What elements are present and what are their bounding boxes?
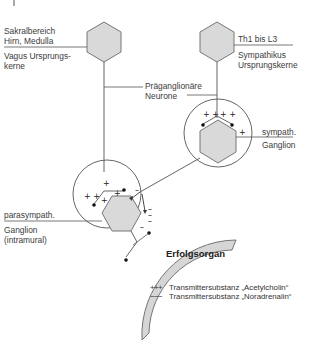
acetylcholin-mark: + [103, 179, 110, 188]
legend-label: Transmittersubstanz „Noradrenalin“ [169, 292, 291, 301]
acetylcholin-mark: + [101, 196, 108, 205]
acetylcholin-mark: + [239, 128, 246, 137]
sympathetic-center-hexagon [200, 22, 234, 62]
acetylcholin-marks: + + [203, 110, 219, 119]
sympathetic-ganglion-label-2: Ganglion [262, 140, 296, 150]
preganglionic-label-2: Neurone [145, 91, 177, 101]
sympathetic-ganglion-hexagon [200, 120, 236, 163]
target-organ-label: Erfolgsorgan [166, 249, 225, 259]
synapse-dot [122, 188, 126, 192]
postganglionic-sympathetic-fiber [140, 158, 200, 192]
acetylcholin-marks: + + [84, 192, 100, 201]
sympathetic-center-label-1: Th1 bis L3 [238, 34, 277, 44]
synapse-dot [230, 123, 234, 127]
parasympathetic-center-label-4: kerne [4, 61, 25, 71]
sympathetic-center-label-2: Sympathikus [238, 50, 286, 60]
parasympathetic-ganglion-label-2: Ganglion [4, 225, 38, 235]
legend-item-noradrenalin: −−−Transmittersubstanz „Noradrenalin“ [150, 292, 291, 302]
arrowhead [143, 210, 147, 214]
parasympathetic-ganglion-hexagon [102, 196, 141, 231]
parasympathetic-center-label-1: Sakralbereich [4, 26, 55, 36]
legend-label: Transmittersubstanz „Acetylcholin“ [169, 283, 288, 292]
acetylcholin-marks: + + [220, 110, 236, 119]
parasympathetic-center-label-3: Vagus Ursprungs- [4, 51, 71, 61]
parasympathetic-center-label-2: Hirn, Medulla [4, 36, 53, 46]
sympathetic-center-label-3: Ursprungskerne [238, 60, 298, 70]
synapse-dot [124, 258, 128, 262]
arrow-to-organ [142, 194, 145, 211]
parasympathetic-ganglion-label-1: parasympath. [4, 210, 55, 220]
noradrenalin-mark: – [140, 223, 144, 232]
parasympathetic-ganglion-label-3: (intramural) [4, 235, 47, 245]
legend-symbol-minus: −−− [150, 292, 169, 302]
acetylcholin-mark: + [114, 189, 121, 198]
noradrenalin-mark: – [148, 217, 152, 226]
preganglionic-label-1: Präganglionäre [145, 81, 202, 91]
synapse-dot [201, 123, 205, 127]
sympathetic-ganglion-label-1: sympath. [262, 127, 296, 137]
synapse-dot [92, 203, 96, 207]
postganglionic-parasympathetic-fiber [126, 231, 137, 257]
parasympathetic-center-hexagon [87, 22, 121, 62]
